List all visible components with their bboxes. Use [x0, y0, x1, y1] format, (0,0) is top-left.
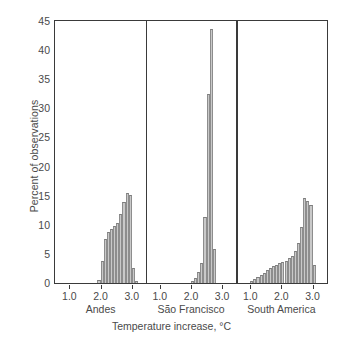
y-axis-tick-label: 35 [38, 73, 50, 85]
x-axis-tick-label: 1.0 [153, 290, 168, 302]
x-axis-tick-mark [101, 285, 102, 289]
y-axis-tick-labels: 051015202530354045 [22, 0, 50, 345]
histogram-bar [210, 29, 213, 283]
y-axis-tick-label: 45 [38, 15, 50, 27]
y-axis-tick-label: 40 [38, 44, 50, 56]
x-axis-tick-label: 3.0 [305, 290, 320, 302]
x-axis-tick-mark [222, 285, 223, 289]
y-axis-tick-label: 10 [38, 219, 50, 231]
x-axis-tick-mark [191, 285, 192, 289]
panel-plot-area [55, 21, 145, 282]
panel-label: Andes [86, 303, 116, 315]
y-axis-tick-label: 15 [38, 190, 50, 202]
histogram-bar [213, 249, 216, 283]
y-axis-tick-label: 5 [44, 248, 50, 260]
x-axis-tick-mark [160, 285, 161, 289]
x-axis-tick-mark [69, 285, 70, 289]
x-axis-tick-label: 2.0 [184, 290, 199, 302]
panel-label: South America [247, 303, 315, 315]
x-axis-tick-mark [281, 285, 282, 289]
y-axis-tick-label: 30 [38, 102, 50, 114]
x-axis-tick-mark [313, 285, 314, 289]
x-axis-tick-label: 2.0 [93, 290, 108, 302]
x-axis-tick-label: 3.0 [215, 290, 230, 302]
histogram-bar [313, 265, 316, 283]
panel-plot-area [146, 21, 236, 282]
x-axis-tick-label: 3.0 [124, 290, 139, 302]
y-axis-tick-label: 25 [38, 131, 50, 143]
chart-figure: Percent of observations 0510152025303540… [0, 0, 343, 345]
y-axis-tick-label: 20 [38, 161, 50, 173]
x-axis-tick-label: 1.0 [62, 290, 77, 302]
panel-label: São Francisco [157, 303, 224, 315]
x-axis-tick-mark [250, 285, 251, 289]
panel-plot-area [236, 21, 326, 282]
y-axis-tick-label: 0 [44, 277, 50, 289]
x-axis-tick-label: 2.0 [274, 290, 289, 302]
x-axis-tick-label: 1.0 [243, 290, 258, 302]
x-axis-title: Temperature increase, °C [0, 320, 343, 332]
x-axis-tick-mark [132, 285, 133, 289]
histogram-bar [135, 281, 138, 283]
